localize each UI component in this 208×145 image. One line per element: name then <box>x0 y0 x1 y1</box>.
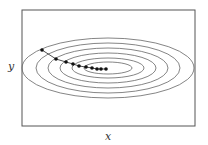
path-point <box>95 67 99 71</box>
path-point <box>71 62 75 66</box>
y-axis-label: y <box>8 60 14 73</box>
path-point <box>54 57 58 61</box>
path-point <box>40 48 44 52</box>
path-point <box>77 64 81 68</box>
path-point <box>104 67 108 71</box>
path-point <box>99 67 103 71</box>
contour-ellipses <box>22 38 194 98</box>
path-point <box>64 60 68 64</box>
path-point <box>90 66 94 70</box>
contour-ellipse <box>60 53 156 83</box>
contour-plot <box>0 0 208 145</box>
path-point <box>84 65 88 69</box>
x-axis-label: x <box>105 130 111 143</box>
contour-ellipse <box>48 48 168 88</box>
contour-ellipse <box>36 43 180 93</box>
contour-ellipse <box>72 58 144 78</box>
